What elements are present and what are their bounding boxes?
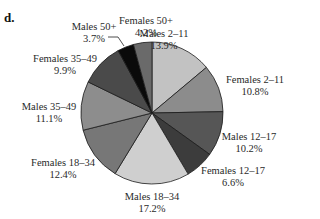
slice-label: Females 18–3412.4% (31, 157, 95, 181)
slice-label: Males 50+3.7% (72, 21, 117, 45)
slice-label: Females 12–176.6% (201, 165, 265, 189)
slice-label-value: 3.7% (72, 33, 117, 45)
slice-label-value: 10.8% (226, 86, 284, 98)
slice-label-name: Females 18–34 (31, 157, 95, 169)
slice-label: Males 18–3417.2% (125, 191, 180, 215)
slice-label: Males 12–1710.2% (222, 131, 277, 155)
slice-label-name: Males 12–17 (222, 131, 277, 143)
slice-label-value: 11.1% (22, 113, 77, 125)
slice-label-name: Males 50+ (72, 21, 117, 33)
slice-label-name: Females 12–17 (201, 165, 265, 177)
slice-label-name: Females 35–49 (33, 53, 97, 65)
slice-label: Females 2–1110.8% (226, 74, 284, 98)
slice-label-name: Males 18–34 (125, 191, 180, 203)
slice-label-name: Females 2–11 (226, 74, 284, 86)
slice-label: Females 50+4.2% (119, 15, 173, 39)
slice-label-value: 12.4% (31, 169, 95, 181)
slice-label-value: 17.2% (125, 203, 180, 215)
slice-label-name: Females 50+ (119, 15, 173, 27)
slice-label-value: 9.9% (33, 65, 97, 77)
slice-label-value: 4.2% (119, 27, 173, 39)
slice-label-value: 6.6% (201, 177, 265, 189)
slice-label-value: 10.2% (222, 143, 277, 155)
slice-label: Males 35–4911.1% (22, 101, 77, 125)
slice-label-value: 13.9% (140, 40, 189, 52)
slice-label: Females 35–499.9% (33, 53, 97, 77)
slice-label-name: Males 35–49 (22, 101, 77, 113)
